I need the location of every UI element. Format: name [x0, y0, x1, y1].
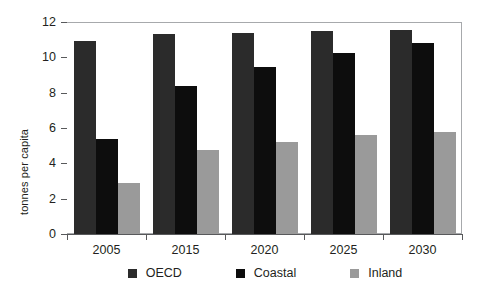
bar	[390, 30, 412, 234]
bar	[175, 86, 197, 234]
bars-layer	[67, 22, 462, 234]
y-tick-label: 10	[2, 50, 56, 64]
bar	[118, 183, 140, 234]
y-tick-label: 6	[2, 121, 56, 135]
bar	[74, 41, 96, 234]
bar	[333, 53, 355, 234]
legend-swatch-icon	[350, 269, 359, 278]
bar	[311, 31, 333, 234]
y-axis-title: tonnes per capita	[18, 15, 36, 215]
bar	[412, 43, 434, 234]
x-tick-mark	[225, 235, 226, 240]
x-axis-line	[67, 234, 463, 235]
chart-legend: OECDCoastalInland	[67, 262, 463, 284]
bar	[96, 139, 118, 234]
x-tick-mark	[304, 235, 305, 240]
x-tick-label: 2005	[93, 243, 121, 257]
legend-label: Inland	[368, 266, 402, 280]
y-tick-label: 8	[2, 86, 56, 100]
y-tick-label: 4	[2, 156, 56, 170]
legend-swatch-icon	[236, 269, 245, 278]
legend-swatch-icon	[128, 269, 137, 278]
x-tick-mark	[383, 235, 384, 240]
y-tick-label: 12	[2, 15, 56, 29]
bar	[197, 150, 219, 234]
bar	[254, 67, 276, 234]
y-tick-label: 2	[2, 192, 56, 206]
x-tick-label: 2030	[409, 243, 437, 257]
x-tick-mark	[462, 235, 463, 240]
bar-chart: tonnes per capita 024681012 200520152020…	[0, 0, 477, 293]
x-tick-mark	[146, 235, 147, 240]
bar	[276, 142, 298, 234]
x-tick-mark	[67, 235, 68, 240]
x-tick-label: 2015	[172, 243, 200, 257]
legend-label: OECD	[146, 266, 182, 280]
x-tick-label: 2020	[251, 243, 279, 257]
bar	[355, 135, 377, 234]
legend-label: Coastal	[254, 266, 296, 280]
legend-item: Inland	[350, 266, 402, 280]
y-tick-label: 0	[2, 227, 56, 241]
bar	[153, 34, 175, 234]
legend-item: Coastal	[236, 266, 296, 280]
bar	[434, 132, 456, 234]
bar	[232, 33, 254, 234]
x-tick-label: 2025	[330, 243, 358, 257]
legend-item: OECD	[128, 266, 182, 280]
